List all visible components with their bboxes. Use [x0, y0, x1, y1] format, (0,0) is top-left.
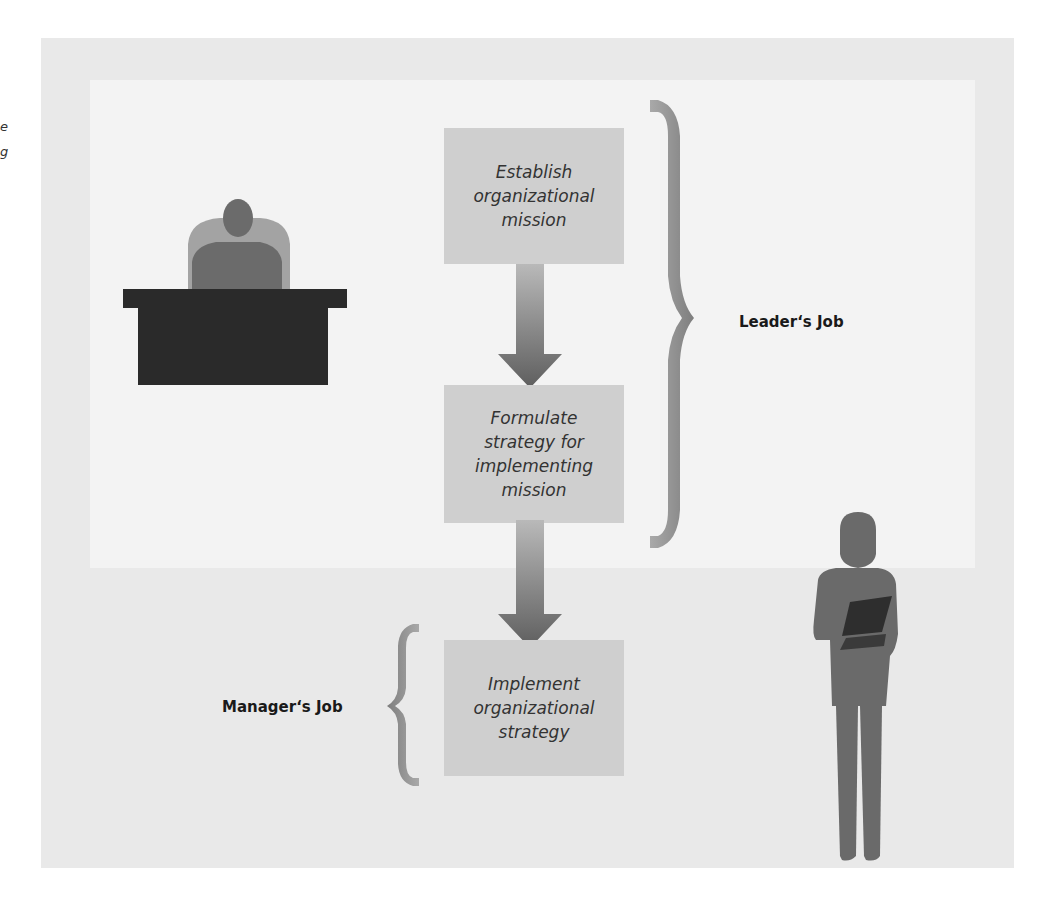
- person-at-desk-icon: [120, 192, 350, 387]
- step-box-establish-mission: Establish organizational mission: [444, 128, 624, 264]
- right-curly-brace-icon: [648, 96, 708, 552]
- person-at-desk-figure: [120, 192, 350, 387]
- step-label: Implement organizational strategy: [473, 672, 594, 744]
- leader-brace: [648, 96, 708, 552]
- managers-job-label: Manager‘s Job: [222, 698, 343, 716]
- step-box-implement-strategy: Implement organizational strategy: [444, 640, 624, 776]
- standing-person-figure: [806, 510, 906, 864]
- arrow-down-icon: [496, 264, 564, 388]
- manager-brace: [385, 622, 421, 788]
- left-curly-brace-icon: [385, 622, 421, 788]
- step-label: Establish organizational mission: [473, 160, 594, 232]
- step-label: Formulate strategy for implementing miss…: [475, 406, 593, 502]
- person-with-folder-icon: [806, 510, 906, 864]
- clipped-edge-text-1: e: [0, 120, 10, 134]
- step-box-formulate-strategy: Formulate strategy for implementing miss…: [444, 385, 624, 523]
- arrow-down-icon: [496, 520, 564, 648]
- leaders-job-label: Leader‘s Job: [739, 313, 844, 331]
- clipped-edge-text-2: g: [0, 145, 10, 159]
